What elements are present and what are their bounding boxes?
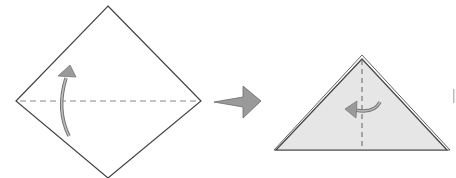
next-figure-edge — [453, 89, 455, 103]
paper-square — [16, 6, 201, 178]
next-step-arrow-icon — [214, 86, 261, 118]
step-1-diamond — [16, 6, 201, 178]
origami-diagram — [0, 0, 456, 178]
step-2-triangle — [274, 55, 450, 150]
